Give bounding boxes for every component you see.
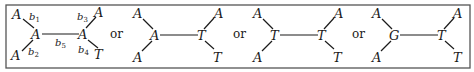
leaf-top-right: A <box>213 6 223 21</box>
internal-left: A <box>30 27 40 42</box>
leaf-bottom-right: T <box>333 50 343 65</box>
tree-labelings-figure: A A A A A T b1 b2 b3 b4 b5 or A A A T A … <box>0 0 474 72</box>
leaf-bottom-left: A <box>252 50 262 65</box>
branch-label-b3: b3 <box>77 11 88 24</box>
internal-right: A <box>77 27 87 42</box>
branch-label-b4: b4 <box>78 44 89 57</box>
internal-right: T <box>317 28 327 43</box>
leaf-top-left: A <box>132 6 142 21</box>
edge-right-bottom <box>445 41 454 49</box>
leaf-top-right: A <box>333 6 343 21</box>
leaf-bottom-left: A <box>132 50 142 65</box>
internal-right: T <box>197 28 207 43</box>
leaf-top-right: A <box>452 6 462 21</box>
leaf-bottom-right: T <box>213 50 223 65</box>
leaf-bottom-right: T <box>94 47 104 62</box>
leaf-top-left: A <box>371 6 381 21</box>
leaf-bottom-right: T <box>453 50 463 65</box>
edge-right-bottom <box>325 41 334 49</box>
figure-canvas: A A A A A T b1 b2 b3 b4 b5 or A A A T A … <box>0 0 474 72</box>
leaf-top-right: A <box>93 5 103 20</box>
tree-3: A A T T A T <box>252 6 343 65</box>
tree-4: A A G T A T <box>371 6 463 65</box>
leaf-top-left: A <box>252 6 262 21</box>
separator-or-1: or <box>110 27 123 41</box>
leaf-bottom-left: A <box>10 48 20 63</box>
separator-or-2: or <box>233 27 246 41</box>
internal-left: G <box>389 28 399 43</box>
branch-label-b2: b2 <box>28 46 39 59</box>
tree-2: A A A T A T <box>132 6 223 65</box>
edge-right-bottom <box>205 41 214 49</box>
leaf-bottom-left: A <box>371 50 381 65</box>
internal-left: A <box>149 28 159 43</box>
internal-left: T <box>270 28 280 43</box>
branch-label-b5: b5 <box>55 37 66 50</box>
leaf-top-left: A <box>11 7 21 22</box>
internal-right: T <box>437 28 447 43</box>
separator-or-3: or <box>352 27 365 41</box>
branch-label-b1: b1 <box>29 11 40 24</box>
tree-1: A A A A A T b1 b2 b3 b4 b5 <box>10 5 104 63</box>
